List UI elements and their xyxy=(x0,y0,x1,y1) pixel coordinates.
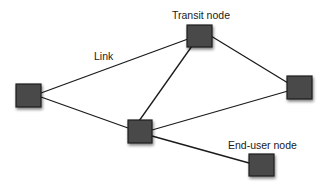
node-bottom-right xyxy=(249,154,274,176)
end-user-node-label: End-user node xyxy=(228,140,297,151)
node-right xyxy=(287,76,312,99)
node-center xyxy=(128,120,152,143)
node-left xyxy=(16,84,41,107)
link-left-top xyxy=(41,39,188,93)
link-top-center xyxy=(139,46,192,121)
link-top-right xyxy=(211,36,288,83)
link-label: Link xyxy=(94,51,113,62)
link-center-right xyxy=(152,91,288,130)
link-left-center xyxy=(41,97,128,128)
network-diagram xyxy=(0,0,329,191)
transit-node-label: Transit node xyxy=(172,10,230,21)
node-top xyxy=(187,25,212,47)
